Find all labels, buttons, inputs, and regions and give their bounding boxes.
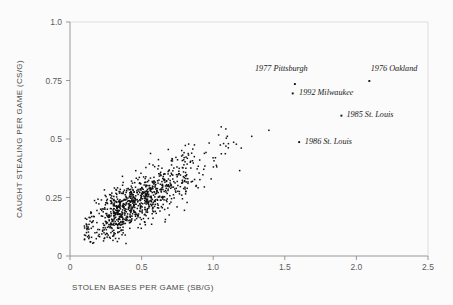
data-point bbox=[122, 214, 124, 216]
data-point bbox=[130, 198, 132, 200]
data-point bbox=[154, 166, 156, 168]
data-point bbox=[152, 181, 154, 183]
data-point bbox=[125, 192, 127, 194]
data-point bbox=[153, 181, 155, 183]
data-point bbox=[161, 206, 163, 208]
data-point bbox=[106, 233, 108, 235]
data-point bbox=[107, 203, 109, 205]
data-point bbox=[102, 223, 104, 225]
data-point bbox=[165, 200, 167, 202]
data-point bbox=[143, 176, 145, 178]
data-point bbox=[129, 201, 131, 203]
annotation-label: 1977 Pittsburgh bbox=[255, 64, 308, 73]
data-point bbox=[159, 210, 161, 212]
x-tick-label: 0.5 bbox=[136, 262, 148, 272]
data-point bbox=[122, 182, 124, 184]
data-point bbox=[185, 168, 187, 170]
data-point bbox=[154, 200, 156, 202]
data-point bbox=[128, 220, 130, 222]
data-point bbox=[106, 215, 108, 217]
data-point bbox=[160, 200, 162, 202]
annotated-data-point bbox=[292, 92, 294, 94]
data-point bbox=[135, 186, 137, 188]
data-point bbox=[169, 180, 171, 182]
data-point bbox=[124, 214, 126, 216]
data-point bbox=[98, 203, 100, 205]
data-point bbox=[146, 190, 148, 192]
data-point bbox=[143, 184, 145, 186]
data-point bbox=[84, 225, 86, 227]
data-point bbox=[127, 213, 129, 215]
data-point bbox=[124, 204, 126, 206]
data-point bbox=[91, 222, 93, 224]
data-point bbox=[161, 188, 163, 190]
data-point bbox=[180, 186, 182, 188]
data-point bbox=[202, 174, 204, 176]
data-point bbox=[147, 181, 149, 183]
data-point bbox=[154, 196, 156, 198]
data-point bbox=[101, 233, 103, 235]
data-point bbox=[111, 198, 113, 200]
data-point bbox=[171, 164, 173, 166]
data-point bbox=[184, 177, 186, 179]
data-point bbox=[96, 222, 98, 224]
data-point bbox=[152, 199, 154, 201]
data-point bbox=[141, 193, 143, 195]
data-point bbox=[131, 215, 133, 217]
data-point bbox=[155, 213, 157, 215]
data-point bbox=[144, 182, 146, 184]
data-point bbox=[196, 168, 198, 170]
data-point bbox=[134, 219, 136, 221]
data-point bbox=[85, 235, 87, 237]
data-point bbox=[184, 161, 186, 163]
data-point bbox=[204, 186, 206, 188]
data-point bbox=[194, 156, 196, 158]
data-point bbox=[105, 204, 107, 206]
data-point bbox=[185, 193, 187, 195]
data-point bbox=[140, 202, 142, 204]
y-tick-label: 0 bbox=[57, 251, 62, 261]
data-point bbox=[150, 196, 152, 198]
data-point bbox=[113, 230, 115, 232]
data-point bbox=[142, 203, 144, 205]
data-point bbox=[109, 194, 111, 196]
data-point bbox=[86, 232, 88, 234]
data-point bbox=[158, 179, 160, 181]
data-point bbox=[134, 214, 136, 216]
data-point bbox=[94, 200, 96, 202]
data-point bbox=[101, 199, 103, 201]
data-point bbox=[166, 181, 168, 183]
data-point bbox=[145, 201, 147, 203]
data-point bbox=[110, 232, 112, 234]
data-point bbox=[188, 154, 190, 156]
data-point bbox=[135, 170, 137, 172]
data-point bbox=[141, 219, 143, 221]
data-point bbox=[117, 206, 119, 208]
data-point bbox=[160, 172, 162, 174]
y-tick-label: 1.0 bbox=[50, 17, 62, 27]
data-point bbox=[114, 214, 116, 216]
data-point bbox=[152, 192, 154, 194]
data-point bbox=[186, 202, 188, 204]
data-point bbox=[139, 188, 141, 190]
data-point bbox=[157, 190, 159, 192]
data-point bbox=[173, 167, 175, 169]
data-point bbox=[137, 179, 139, 181]
data-point bbox=[199, 159, 201, 161]
data-point bbox=[107, 216, 109, 218]
data-point bbox=[166, 193, 168, 195]
data-point bbox=[164, 221, 166, 223]
data-point bbox=[110, 215, 112, 217]
data-point bbox=[184, 188, 186, 190]
data-point bbox=[161, 191, 163, 193]
data-point bbox=[130, 189, 132, 191]
data-point bbox=[89, 236, 91, 238]
data-point bbox=[160, 184, 162, 186]
data-point bbox=[117, 212, 119, 214]
data-point bbox=[119, 201, 121, 203]
data-point bbox=[117, 227, 119, 229]
data-point bbox=[148, 180, 150, 182]
data-point bbox=[151, 188, 153, 190]
data-point bbox=[114, 205, 116, 207]
data-point bbox=[145, 215, 147, 217]
